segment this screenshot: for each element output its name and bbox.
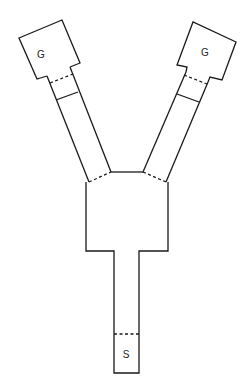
center-room-walls [86,182,168,373]
left-arm-gate [56,92,78,100]
left-arm-inner-wall [70,67,111,172]
right-goal-label: G [201,47,209,58]
right-arm-inner-wall [143,72,186,172]
right-goal-door [184,75,207,84]
y-maze-diagram: G G S [0,0,246,380]
start-label: S [123,349,130,360]
left-arm-entry-door [89,172,111,182]
right-arm-gate [177,94,199,102]
left-arm-outer-wall [47,76,89,182]
left-goal-label: G [37,49,45,60]
left-goal-door [50,74,73,83]
right-arm-entry-door [143,172,166,182]
